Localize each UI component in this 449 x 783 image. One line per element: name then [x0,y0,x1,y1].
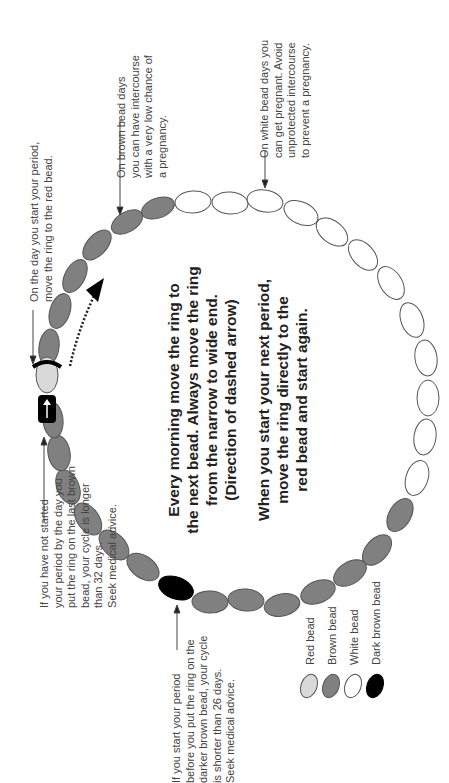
legend-white-bead-icon [341,672,364,700]
legend-dark-brown-bead-icon [363,672,386,700]
legend-brown-bead-label: Brown bead [326,606,338,665]
legend-dark-brown-bead-label: Dark brown bead [370,581,382,665]
brown-beads-upper [37,193,178,366]
legend-icons [297,672,386,700]
legend-red-bead-label: Red bead [304,617,316,665]
bead-ring-diagram: On the day you start your period, move t… [0,0,449,783]
legend-red-bead-icon [297,672,320,700]
red-bead-note: On the day you start your period, move t… [28,142,55,302]
dark-brown-bead [155,572,196,605]
ring-direction-marker [38,395,56,423]
next-period-instruction: When you start your next period, move th… [254,255,311,545]
legend-white-bead-label: White bead [348,609,360,665]
legend-brown-bead-icon [319,672,342,700]
short-cycle-note: If you start your period before you put … [170,636,238,783]
brown-bead-note: On brown bead days you can have intercou… [115,55,169,178]
daily-move-instruction: Every morning move the ring to the next … [164,240,240,560]
dashed-arrow-head-icon [86,278,104,302]
white-bead-note: On white bead days you can get pregnant.… [258,40,312,158]
direction-dashed-arrow-icon [70,296,94,366]
long-cycle-note: If you have not started your period by t… [38,466,119,608]
